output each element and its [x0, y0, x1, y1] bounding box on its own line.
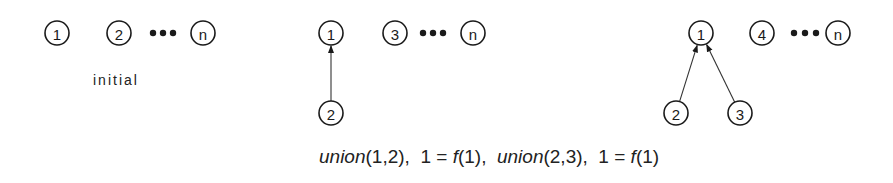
node-label: n [469, 26, 477, 43]
ellipsis-dot [440, 30, 446, 36]
node-label: 1 [697, 26, 705, 43]
ellipsis-dot [430, 30, 436, 36]
caption-text: (2,3), 1 = [543, 146, 630, 167]
node-1: 1 [45, 21, 69, 45]
caption: union(1,2), 1 = f(1), union(2,3), 1 = f(… [319, 146, 659, 168]
ellipsis-dot [813, 30, 819, 36]
node-label: 1 [53, 26, 61, 43]
ellipsis-dot [160, 30, 166, 36]
node-label: 2 [672, 106, 680, 123]
caption-text: (1), [458, 146, 497, 167]
node-2: 2 [319, 101, 343, 125]
node-n: n [826, 21, 850, 45]
ellipsis-dot [420, 30, 426, 36]
edge-arrow [707, 45, 735, 103]
node-label: n [199, 26, 207, 43]
node-2: 2 [664, 101, 688, 125]
initial-label: initial [93, 72, 139, 88]
node-1: 1 [319, 21, 343, 45]
ellipsis-dot [802, 30, 808, 36]
node-label: 1 [327, 26, 335, 43]
edge-arrow [680, 45, 698, 101]
node-2: 2 [107, 21, 131, 45]
labels-layer: initial [93, 72, 139, 88]
node-label: 3 [736, 106, 744, 123]
node-1: 1 [689, 21, 713, 45]
node-label: n [834, 26, 842, 43]
nodes-layer: 12n13n214n23 [45, 21, 850, 125]
caption-text: (1) [636, 146, 659, 167]
node-3: 3 [728, 101, 752, 125]
node-4: 4 [750, 21, 774, 45]
caption-function-name: union [497, 146, 544, 167]
ellipsis-dot [170, 30, 176, 36]
node-n: n [191, 21, 215, 45]
edges-layer [331, 45, 735, 103]
node-label: 2 [115, 26, 123, 43]
node-label: 2 [327, 106, 335, 123]
ellipsis-dot [791, 30, 797, 36]
node-label: 3 [391, 26, 399, 43]
node-n: n [461, 21, 485, 45]
node-3: 3 [383, 21, 407, 45]
ellipsis-dot [150, 30, 156, 36]
caption-function-name: union [319, 146, 366, 167]
caption-text: (1,2), 1 = [366, 146, 453, 167]
node-label: 4 [758, 26, 766, 43]
